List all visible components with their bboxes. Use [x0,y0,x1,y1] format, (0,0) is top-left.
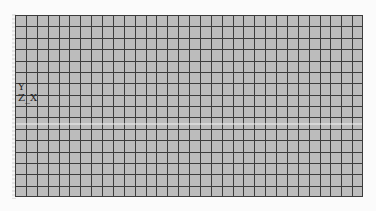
axis-triad: Y Z_X [18,82,37,103]
axis-label-zx: Z_X [18,93,37,103]
fe-mesh-grid[interactable] [15,15,363,197]
graphics-viewport[interactable]: Y Z_X [0,0,376,211]
